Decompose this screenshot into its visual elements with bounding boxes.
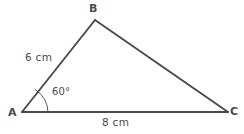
side-length-label-ab: 6 cm: [25, 52, 52, 63]
triangle-figure: A B C 6 cm 8 cm 60°: [0, 0, 244, 134]
side-length-label-ac: 8 cm: [102, 117, 129, 128]
angle-measure-label-a: 60°: [52, 87, 70, 97]
triangle-side-bc: [95, 20, 228, 112]
vertex-label-b: B: [89, 3, 98, 14]
vertex-label-a: A: [8, 107, 17, 118]
vertex-label-c: C: [230, 106, 238, 117]
triangle-drawing: [0, 0, 244, 134]
triangle-side-ab: [22, 20, 95, 112]
